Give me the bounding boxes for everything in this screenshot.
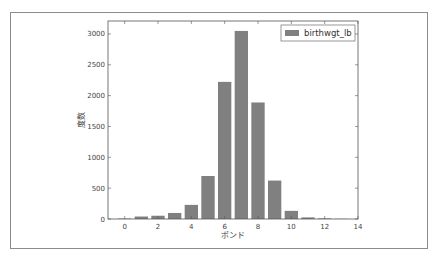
y-tick-label: 1000: [87, 154, 105, 162]
bar: [268, 181, 281, 219]
x-tick-label: 12: [320, 223, 329, 231]
y-axis-label: 度数: [76, 112, 86, 128]
x-tick-label: 6: [222, 223, 227, 231]
bar-chart: 05001000150020002500300002468101214ポンド度数…: [0, 0, 437, 258]
x-tick-label: 14: [354, 223, 363, 231]
bar: [235, 31, 248, 219]
x-tick-label: 10: [287, 223, 296, 231]
x-tick-label: 4: [189, 223, 194, 231]
bar: [168, 213, 181, 219]
legend-swatch: [285, 30, 299, 36]
y-tick-label: 2000: [87, 92, 105, 100]
plot-area-border: [108, 21, 358, 219]
y-tick-label: 500: [92, 185, 105, 193]
x-axis-label: ポンド: [221, 231, 245, 240]
x-tick-label: 0: [122, 223, 126, 231]
bar: [218, 82, 231, 219]
bar: [251, 102, 264, 219]
y-tick-label: 2500: [87, 61, 105, 69]
y-tick-label: 1500: [87, 123, 105, 131]
x-tick-label: 8: [256, 223, 260, 231]
x-tick-label: 2: [156, 223, 160, 231]
y-tick-label: 0: [101, 216, 105, 224]
bar: [201, 176, 214, 219]
y-tick-label: 3000: [87, 30, 105, 38]
legend-label: birthwgt_lb: [304, 28, 352, 38]
